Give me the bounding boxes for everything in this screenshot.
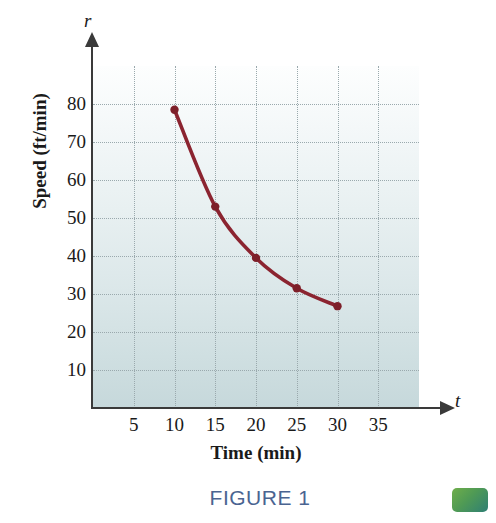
x-axis-variable-label: t <box>455 390 460 412</box>
gridline-horizontal <box>93 142 419 143</box>
x-axis-tick-label: 30 <box>318 414 358 436</box>
y-axis-tick-label: 40 <box>50 245 86 267</box>
x-axis-arrowhead-icon <box>440 401 455 415</box>
plot-area <box>93 66 419 408</box>
gridline-vertical <box>134 66 135 408</box>
gridline-horizontal <box>93 294 419 295</box>
gridline-vertical <box>175 66 176 408</box>
gridline-vertical <box>256 66 257 408</box>
gridline-vertical <box>378 66 379 408</box>
x-axis-title: Time (min) <box>93 442 419 464</box>
gridline-horizontal <box>93 104 419 105</box>
y-axis-tick-label: 60 <box>50 169 86 191</box>
x-axis-tick-label: 15 <box>195 414 235 436</box>
x-axis-tick-label: 20 <box>236 414 276 436</box>
corner-color-swatch <box>452 488 488 512</box>
y-axis-tick-label: 70 <box>50 131 86 153</box>
gridline-vertical <box>215 66 216 408</box>
y-axis-tick-label: 20 <box>50 321 86 343</box>
gridline-horizontal <box>93 370 419 371</box>
y-axis-tick-label: 30 <box>50 283 86 305</box>
gridline-horizontal <box>93 256 419 257</box>
figure-container: r t 1020304050607080 5101520253035 Speed… <box>0 0 496 523</box>
gridline-vertical <box>297 66 298 408</box>
vertical-gridlines <box>93 66 419 408</box>
x-axis-tick-labels: 5101520253035 <box>0 414 496 440</box>
x-axis-tick-label: 25 <box>277 414 317 436</box>
figure-caption: FIGURE 1 <box>150 486 370 510</box>
gridline-horizontal <box>93 180 419 181</box>
horizontal-gridlines <box>93 66 419 408</box>
y-axis-line <box>91 45 93 409</box>
y-axis-title: Speed (ft/min) <box>29 51 51 251</box>
gridline-horizontal <box>93 332 419 333</box>
x-axis-tick-label: 35 <box>358 414 398 436</box>
gridline-horizontal <box>93 218 419 219</box>
gridline-vertical <box>338 66 339 408</box>
y-axis-tick-label: 80 <box>50 93 86 115</box>
x-axis-tick-label: 10 <box>155 414 195 436</box>
y-axis-arrowhead-icon <box>85 32 99 47</box>
x-axis-line <box>91 407 443 409</box>
x-axis-tick-label: 5 <box>114 414 154 436</box>
y-axis-tick-label: 10 <box>50 359 86 381</box>
y-axis-tick-label: 50 <box>50 207 86 229</box>
